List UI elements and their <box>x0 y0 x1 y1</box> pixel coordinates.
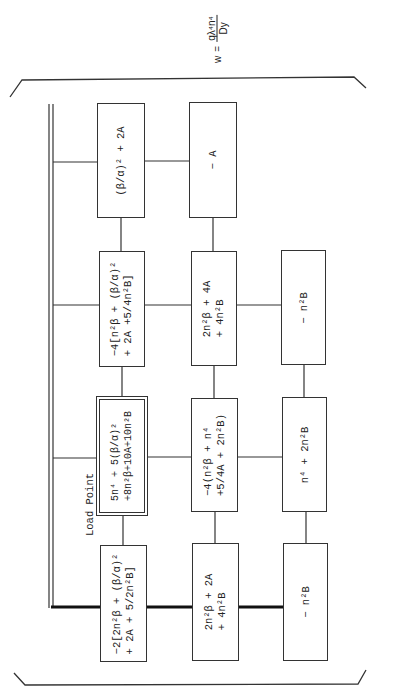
cell-text: − n²B <box>299 586 312 618</box>
grid-cell-r4-c3: − n²B <box>283 543 328 661</box>
grid-cell-r2-c3: − n²B <box>281 250 326 365</box>
grid-cell-r1-c1: (β/α)² + 2A <box>97 103 145 218</box>
grid-cell-r2-c2: 2n²β + 4A + 4n²B <box>191 251 237 366</box>
cell-text: 2n²β + 4A <box>201 280 214 337</box>
load-point-label: Load Point <box>84 473 96 536</box>
grid-cell-r3-c3: n⁴ + 2n²B <box>282 397 327 512</box>
grid-cell-r3-c2: −4(n²β + n⁴ +5/4A + 2n²B) <box>191 398 238 512</box>
cell-text: +8n²β+10A+10n²B <box>122 411 135 501</box>
cell-text: + 4n²B <box>216 574 229 631</box>
grid-cell-r4-c2: 2n²β + 2A + 4n²B <box>192 543 239 661</box>
top-bracket <box>10 77 366 97</box>
cell-text: (β/α)² + 2A <box>115 126 128 195</box>
cell-text: n⁴ + 2n²B <box>298 426 311 483</box>
cell-text: 5n⁴ + 5(β/α)² <box>109 411 122 501</box>
cell-text: + 2A + 5/2n²B] <box>124 553 137 654</box>
cell-text: −2[2n²β + (β/α)² <box>111 553 124 654</box>
grid-cell-load-point: 5n⁴ + 5(β/α)² +8n²β+10A+10n²B <box>96 396 148 516</box>
bottom-bracket <box>14 670 366 685</box>
grid-cell-r2-c1: −4[n²β + (β/α)² + 2A +5/4n²B] <box>99 251 145 367</box>
cell-text: − A <box>207 151 220 170</box>
grid-cell-r4-c1: −2[2n²β + (β/α)² + 2A + 5/2n²B] <box>100 545 147 662</box>
cell-text: +5/4A + 2n²B) <box>215 414 228 496</box>
cell-text: + 4n²B <box>214 280 227 337</box>
cell-text: −4(n²β + n⁴ <box>202 414 215 496</box>
cell-text: −4[n²β + (β/α)² <box>109 262 122 357</box>
grid-cell-r1-c2: − A <box>189 102 237 218</box>
cell-text: + 2A +5/4n²B] <box>122 262 135 357</box>
cell-text: 2n²β + 2A <box>203 574 216 631</box>
cell-text: − n²B <box>297 292 310 324</box>
